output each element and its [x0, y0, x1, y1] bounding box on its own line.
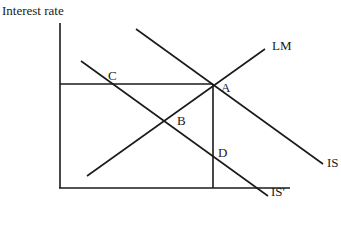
point-c-label: C [108, 68, 117, 83]
is-curve-label: IS [327, 155, 339, 170]
is-prime-curve-label: IS' [271, 184, 285, 199]
curves-group: LMISIS' [81, 29, 339, 199]
is-curve [136, 29, 323, 164]
point-d-label: D [218, 145, 227, 160]
is-lm-diagram: Interest rate LMISIS' ABCD [0, 0, 341, 226]
y-axis-label: Interest rate [2, 3, 64, 18]
point-a-label: A [221, 80, 231, 95]
point-b-label: B [177, 113, 186, 128]
lm-curve-label: LM [272, 38, 292, 53]
